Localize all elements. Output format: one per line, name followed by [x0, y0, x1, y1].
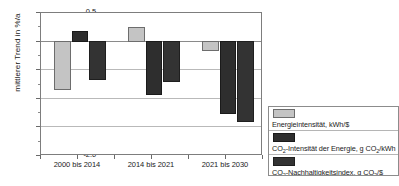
- bar: [89, 41, 106, 80]
- x-tick-boundary: [262, 155, 263, 159]
- bar-chart: mittlerer Trend in %/a 0.50.0-0.5-1.0-1.…: [0, 0, 399, 186]
- y-axis-title: mittlerer Trend in %/a: [13, 0, 22, 113]
- legend-label: CO2-Intensität der Energie, g CO2/kWh: [272, 144, 396, 153]
- bar: [202, 41, 219, 52]
- x-tick-boundary: [114, 155, 115, 159]
- bar: [146, 41, 163, 96]
- bar: [237, 41, 254, 122]
- gridline: [41, 126, 261, 127]
- x-tick-boundary: [188, 155, 189, 159]
- bar: [163, 41, 180, 82]
- x-tick-boundary: [40, 155, 41, 159]
- legend-item-energieintensitaet: Energieintensität, kWh/$: [269, 107, 398, 130]
- bar: [220, 41, 237, 114]
- x-tick-mark: [77, 155, 78, 159]
- legend-swatch: [273, 157, 295, 166]
- legend-swatch: [273, 109, 295, 118]
- bar: [54, 41, 71, 90]
- plot-area: [40, 12, 262, 155]
- bar: [128, 27, 145, 42]
- legend-swatch: [273, 133, 295, 142]
- legend-item-co2-nachhaltigkeitsindex: CO2-Nachhaltigkeitsindex, g CO2/$: [269, 154, 398, 176]
- chart-legend: Energieintensität, kWh/$CO2-Intensität d…: [268, 106, 399, 176]
- x-tick-mark: [151, 155, 152, 159]
- bar: [72, 31, 89, 42]
- legend-label: CO2-Nachhaltigkeitsindex, g CO2/$: [272, 168, 383, 176]
- legend-label: Energieintensität, kWh/$: [272, 120, 349, 129]
- legend-item-co2-intensitaet-energie: CO2-Intensität der Energie, g CO2/kWh: [269, 130, 398, 153]
- x-tick-mark: [225, 155, 226, 159]
- x-category-label: 2021 bis 2030: [180, 160, 270, 169]
